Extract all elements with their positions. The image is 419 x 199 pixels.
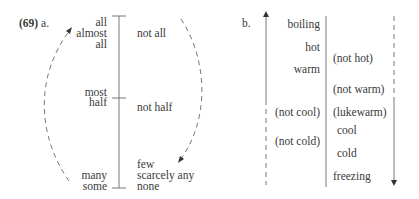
scale-b-right-lukewarm: (lukewarm) <box>333 107 387 118</box>
example-number: (69) a. <box>19 18 49 29</box>
scale-b-right-cool: cool <box>337 125 357 136</box>
panel-b-label: b. <box>242 18 251 29</box>
scale-b-right-freezing: freezing <box>333 171 371 182</box>
scale-b-right-not-hot: (not hot) <box>333 53 373 64</box>
scale-b-right-cold: cold <box>337 148 357 159</box>
scale-a-right-not-all: not all <box>137 28 166 39</box>
scale-b-left-hot: hot <box>305 42 320 53</box>
scale-a-left-all2: all <box>96 39 108 50</box>
scale-b-left-boiling: boiling <box>287 19 320 30</box>
scale-a-left-half: half <box>89 97 107 108</box>
scale-b-left-not-cold: (not cold) <box>275 136 320 147</box>
scale-b-left-warm: warm <box>294 64 320 75</box>
scale-a-right-not-half: not half <box>137 102 172 113</box>
scale-b-right-not-warm: (not warm) <box>333 84 384 95</box>
scale-b-left-not-cool: (not cool) <box>275 107 320 118</box>
scale-a-left-some: some <box>83 181 107 192</box>
scale-a-right-none: none <box>137 181 159 192</box>
